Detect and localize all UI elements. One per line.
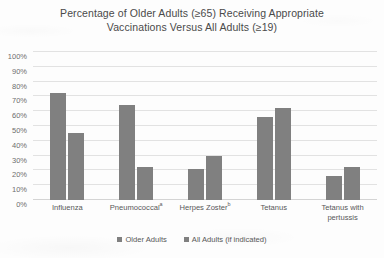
legend-swatch-icon — [184, 237, 189, 242]
x-axis-category-label: Tetanus withpertussis — [308, 203, 377, 223]
chart-title-line-2: Vaccinations Versus All Adults (≥19) — [0, 20, 384, 34]
x-axis-category-label: Tetanus — [239, 203, 308, 213]
bar — [257, 117, 273, 200]
plot-area — [33, 52, 377, 200]
bar-group — [50, 52, 84, 200]
bar-group — [119, 52, 153, 200]
legend-label: Older Adults — [125, 235, 166, 244]
x-axis-category-label: Influenza — [33, 203, 102, 213]
bar — [326, 176, 342, 200]
bar-chart: Percentage of Older Adults (≥65) Receivi… — [0, 0, 384, 258]
legend-item: All Adults (if indicated) — [184, 235, 267, 244]
y-axis: 0%10%20%30%40%50%60%70%80%90%100% — [0, 52, 30, 200]
chart-title: Percentage of Older Adults (≥65) Receivi… — [0, 6, 384, 34]
legend-item: Older Adults — [117, 235, 166, 244]
x-axis-category-labels: InfluenzaPneumococcalaHerpes ZosterbTeta… — [33, 203, 377, 229]
bar — [275, 108, 291, 200]
chart-legend: Older AdultsAll Adults (if indicated) — [0, 235, 384, 244]
legend-label: All Adults (if indicated) — [192, 235, 267, 244]
legend-swatch-icon — [117, 237, 122, 242]
bar — [50, 93, 66, 200]
bar — [119, 105, 135, 200]
bar — [137, 167, 153, 200]
bar-group — [257, 52, 291, 200]
bar-group — [188, 52, 222, 200]
chart-title-line-1: Percentage of Older Adults (≥65) Receivi… — [0, 6, 384, 20]
bar — [68, 133, 84, 200]
bar — [344, 167, 360, 200]
x-axis-category-label: Pneumococcala — [102, 203, 171, 213]
bar-group — [326, 52, 360, 200]
x-axis-category-label: Herpes Zosterb — [171, 203, 240, 213]
bars-layer — [33, 52, 377, 200]
bar — [188, 169, 204, 200]
bar — [206, 156, 222, 200]
